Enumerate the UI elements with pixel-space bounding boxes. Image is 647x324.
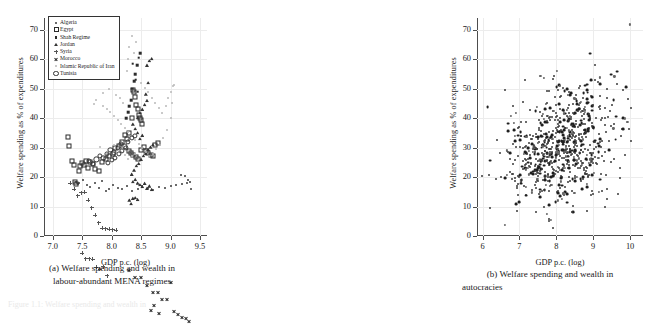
data-point xyxy=(592,127,595,130)
data-point xyxy=(511,173,513,175)
data-point xyxy=(147,91,149,93)
data-point xyxy=(600,173,602,175)
gridline-vertical xyxy=(171,18,172,236)
data-point xyxy=(486,106,489,109)
data-point xyxy=(584,129,587,132)
data-point xyxy=(489,159,492,162)
data-point xyxy=(127,158,129,160)
data-point xyxy=(112,184,114,186)
legend-marker-icon xyxy=(52,57,60,61)
data-point xyxy=(550,148,552,150)
y-axis-tick-label: 50 xyxy=(30,84,38,92)
data-point xyxy=(542,179,544,181)
legend-marker-icon xyxy=(52,36,60,39)
data-point xyxy=(595,162,597,164)
data-point xyxy=(599,138,602,141)
data-point xyxy=(534,110,537,113)
data-point xyxy=(538,129,540,131)
data-point xyxy=(585,131,587,133)
y-axis-tick xyxy=(40,118,44,119)
data-point xyxy=(495,178,497,180)
data-point xyxy=(561,157,563,159)
y-axis-tick xyxy=(473,148,477,149)
data-point xyxy=(556,130,559,133)
data-point xyxy=(622,89,624,91)
data-point xyxy=(55,36,58,39)
data-point xyxy=(68,181,72,185)
data-point xyxy=(131,190,133,192)
data-point xyxy=(594,156,596,158)
data-point xyxy=(559,108,561,110)
data-point xyxy=(585,157,588,160)
data-point xyxy=(548,131,550,133)
data-point xyxy=(165,105,167,107)
data-point xyxy=(187,320,191,324)
gridline-horizontal xyxy=(477,59,643,60)
x-axis-tick xyxy=(483,236,484,240)
data-point xyxy=(158,186,160,188)
panel-a-caption-line1: (a) Welfare spending and wealth in xyxy=(12,262,212,275)
gridline-horizontal xyxy=(44,207,207,208)
y-axis-tick-label: 10 xyxy=(30,202,38,210)
data-point xyxy=(127,131,129,133)
legend-item-label: Syria xyxy=(60,48,72,55)
data-point xyxy=(584,173,586,175)
data-point xyxy=(622,128,625,131)
data-point xyxy=(545,121,548,124)
data-point xyxy=(566,115,568,117)
data-point xyxy=(514,203,517,206)
data-point xyxy=(562,87,564,89)
data-point xyxy=(95,99,97,101)
y-axis-tick xyxy=(40,148,44,149)
data-point xyxy=(519,131,522,134)
data-point xyxy=(552,142,554,144)
data-point xyxy=(99,146,101,148)
data-point xyxy=(488,174,490,176)
data-point xyxy=(592,104,594,106)
data-point xyxy=(590,194,592,196)
data-point xyxy=(537,152,540,155)
data-point xyxy=(513,139,516,142)
data-point xyxy=(117,119,119,121)
data-point xyxy=(557,171,559,173)
data-point xyxy=(561,131,564,134)
data-point xyxy=(541,124,544,127)
x-axis-tick-label: 6 xyxy=(480,243,484,251)
data-point xyxy=(599,178,602,181)
data-point xyxy=(599,108,601,110)
y-axis-tick-label: 30 xyxy=(30,143,38,151)
data-point xyxy=(156,291,160,295)
data-point xyxy=(529,109,531,111)
x-axis-tick xyxy=(141,236,142,240)
data-point xyxy=(555,116,557,118)
data-point xyxy=(587,149,589,151)
x-axis-tick-label: 8.5 xyxy=(136,243,146,251)
data-point xyxy=(543,108,546,111)
x-axis-tick xyxy=(53,236,54,240)
data-point xyxy=(565,141,568,144)
data-point xyxy=(94,182,96,184)
data-point xyxy=(543,153,545,155)
data-point xyxy=(526,153,528,155)
data-point xyxy=(155,148,157,150)
data-point xyxy=(131,87,134,90)
data-point xyxy=(108,188,110,190)
data-point xyxy=(539,196,542,199)
data-point xyxy=(173,84,175,86)
data-point xyxy=(166,129,168,131)
data-point xyxy=(574,136,576,138)
data-point xyxy=(556,144,559,147)
data-point xyxy=(619,177,621,179)
data-point xyxy=(531,170,534,173)
data-point xyxy=(533,153,536,156)
data-point xyxy=(576,145,578,147)
data-point xyxy=(609,110,611,112)
data-point xyxy=(141,147,143,149)
data-point xyxy=(76,168,81,173)
data-point xyxy=(528,142,530,144)
panel-a-legend: AlgeriaEgyptShah RegimeJordanSyriaMorocc… xyxy=(48,16,120,80)
data-point xyxy=(568,119,570,121)
x-axis-tick-label: 7 xyxy=(517,243,521,251)
y-axis-tick-label: 60 xyxy=(463,55,471,63)
data-point xyxy=(136,90,139,93)
